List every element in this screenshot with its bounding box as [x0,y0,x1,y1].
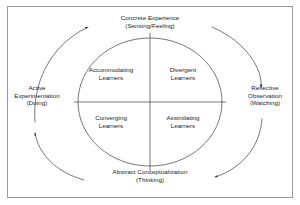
quadrant-divergent-line2: Learners [171,74,195,81]
arc-to-abstract-conceptualization [215,119,262,177]
quadrant-label-converging-learners: Converging Learners [80,114,142,129]
stage-mode-active-experimentation: (Doing) [27,99,48,106]
stage-title-reflective-observation-line2: Observation [248,92,282,99]
stage-title-active-experimentation-line1: Active [28,84,45,91]
quadrant-accommodating-line1: Accommodating [89,66,133,73]
stage-title-active-experimentation-line2: Experimentation [14,92,59,99]
stage-title-abstract-conceptualization: Abstract Conceptualization [113,168,188,175]
quadrant-accommodating-line2: Learners [99,74,123,81]
diagram-canvas: Concrete Experience (Sensing/Feeling) Re… [0,0,300,205]
quadrant-assimilating-line2: Learners [171,122,195,129]
stage-label-concrete-experience: Concrete Experience (Sensing/Feeling) [92,14,208,29]
stage-label-abstract-conceptualization: Abstract Conceptualization (Thinking) [84,168,216,183]
inner-circle-group [74,33,226,171]
stage-mode-concrete-experience: (Sensing/Feeling) [125,22,174,29]
outer-cycle-arcs [35,27,262,180]
quadrant-label-divergent-learners: Divergent Learners [152,66,214,81]
arc-to-active-experimentation [35,133,84,180]
quadrant-divergent-line1: Divergent [170,66,196,73]
stage-mode-abstract-conceptualization: (Thinking) [136,176,164,183]
stage-title-reflective-observation-line1: Reflective [251,84,279,91]
stage-label-reflective-observation: Reflective Observation (Watching) [236,84,294,107]
arc-to-reflective-observation [212,27,261,87]
quadrant-assimilating-line1: Assimilating [166,114,199,121]
quadrant-label-assimilating-learners: Assimilating Learners [152,114,214,129]
stage-label-active-experimentation: Active Experimentation (Doing) [6,84,68,107]
stage-title-concrete-experience: Concrete Experience [121,14,180,21]
stage-mode-reflective-observation: (Watching) [250,99,280,106]
quadrant-converging-line2: Learners [99,122,123,129]
quadrant-label-accommodating-learners: Accommodating Learners [80,66,142,81]
quadrant-converging-line1: Converging [95,114,127,121]
